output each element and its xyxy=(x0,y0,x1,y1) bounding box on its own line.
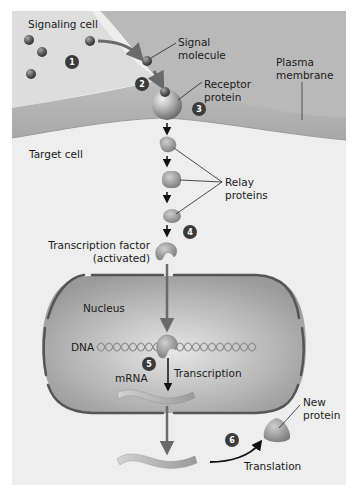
step-badge-5: 5 xyxy=(142,357,156,371)
signal-molecule xyxy=(85,36,95,46)
new-protein-label-line2: protein xyxy=(303,409,340,421)
relay-proteins-label-line2: proteins xyxy=(225,189,268,201)
transcription-factor-label-line1: Transcription factor xyxy=(47,239,150,251)
plasma-membrane-label-line1: Plasma xyxy=(276,56,314,68)
svg-text:4: 4 xyxy=(187,228,193,237)
target-cell-label: Target cell xyxy=(28,148,83,160)
plasma-membrane-label-line2: membrane xyxy=(276,69,333,81)
mrna-label: mRNA xyxy=(115,372,148,384)
relay-proteins-label-line1: Relay xyxy=(225,176,254,188)
signal-molecule xyxy=(24,35,34,45)
receptor-protein-label-line2: protein xyxy=(204,91,241,103)
svg-text:5: 5 xyxy=(146,360,152,369)
step-badge-4: 4 xyxy=(183,225,197,239)
dna-label: DNA xyxy=(71,341,95,353)
step-badge-3: 3 xyxy=(192,102,206,116)
cell-signaling-diagram: 1 2 3 4 5 6 Signaling cell Signal molecu… xyxy=(0,0,356,498)
step-badge-6: 6 xyxy=(225,433,239,447)
step-badge-1: 1 xyxy=(65,55,79,69)
receptor-protein-label-line1: Receptor xyxy=(204,78,252,90)
signal-molecule-label-line2: molecule xyxy=(178,49,226,61)
new-protein-label-line1: New xyxy=(303,396,326,408)
svg-text:6: 6 xyxy=(229,436,235,445)
transcription-factor-label-line2: (activated) xyxy=(93,252,150,264)
transcription-label: Transcription xyxy=(173,367,242,379)
bound-signal-molecule xyxy=(160,87,170,97)
signal-molecule xyxy=(26,69,36,79)
svg-text:3: 3 xyxy=(196,105,202,114)
svg-text:1: 1 xyxy=(69,58,75,67)
signal-molecule-label-line1: Signal xyxy=(178,36,210,48)
signal-molecule xyxy=(142,56,152,66)
signal-molecule xyxy=(37,47,47,57)
translation-label: Translation xyxy=(243,460,301,472)
svg-text:2: 2 xyxy=(139,80,145,89)
step-badge-2: 2 xyxy=(135,77,149,91)
relay-protein-3 xyxy=(163,209,181,223)
nucleus-label: Nucleus xyxy=(83,302,125,314)
signaling-cell-label: Signaling cell xyxy=(28,18,98,30)
relay-protein-2 xyxy=(162,171,181,188)
